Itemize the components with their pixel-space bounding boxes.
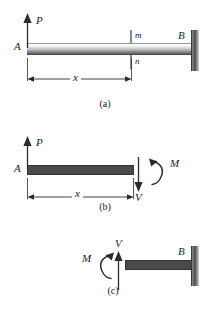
- label-load-p-a: P: [36, 15, 43, 26]
- label-distance-x-a: x: [70, 72, 81, 83]
- caption-a: (a): [85, 99, 125, 109]
- load-arrow-p-a: [22, 13, 36, 49]
- label-distance-x-b: x: [72, 188, 83, 199]
- label-point-a-b: A: [14, 163, 21, 174]
- label-point-a: A: [14, 41, 21, 52]
- moment-arc-m-c: [94, 252, 120, 283]
- label-point-b-c: B: [178, 246, 185, 257]
- label-moment-m-c: M: [82, 253, 91, 264]
- label-shear-v-c: V: [115, 238, 122, 249]
- label-point-b-a: B: [178, 30, 185, 41]
- beam-a: [27, 43, 192, 55]
- fixed-support-wall-c: [191, 246, 199, 286]
- beam-b: [27, 165, 134, 175]
- beam-c: [125, 260, 192, 270]
- dimension-line-x-a: [22, 56, 142, 88]
- label-section-m: m: [135, 31, 142, 40]
- load-arrow-p-b: [22, 136, 36, 170]
- caption-b: (b): [85, 202, 125, 212]
- label-moment-m-b: M: [170, 158, 179, 169]
- panel-c: B V M (c): [0, 220, 205, 310]
- label-load-p-b: P: [36, 137, 43, 148]
- caption-c: (c): [93, 286, 133, 296]
- fixed-support-wall-a: [191, 30, 199, 71]
- panel-b: P A V M x (b): [0, 120, 205, 220]
- panel-a: P A B m n x (a): [0, 0, 205, 120]
- beam-figure: P A B m n x (a) P A: [0, 0, 205, 310]
